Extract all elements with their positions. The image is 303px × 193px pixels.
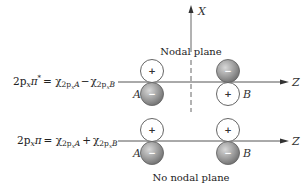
z-axis-arrow-icon [280,139,289,144]
svg-text:−: − [224,148,232,158]
nodal-plane-caption: Nodal plane [160,46,222,57]
svg-text:+: + [148,66,156,76]
atom-label-a: A [132,147,141,160]
atom-label-a: A [132,88,141,101]
z-axis-label: Z [291,76,300,89]
svg-text:−: − [224,66,232,76]
x-axis-arrow-icon [189,5,194,13]
no-nodal-plane-caption: No nodal plane [152,172,229,183]
z-axis-arrow-icon [280,80,289,85]
svg-text:+: + [224,125,232,135]
svg-text:+: + [148,125,156,135]
mo-diagram: X Nodal plane 2pxπ*= χ2pxA−χ2pxB Z + − A… [0,0,303,193]
antibonding-equation: 2pxπ*= χ2pxA−χ2pxB [13,74,116,90]
svg-text:+: + [224,89,232,99]
x-axis-label: X [197,5,207,18]
z-axis-label: Z [291,135,300,148]
svg-text:2pxπ= χ2pxA+χ2pxB: 2pxπ= χ2pxA+χ2pxB [17,134,118,149]
svg-text:−: − [148,148,156,158]
svg-text:2pxπ*= χ2pxA−χ2pxB: 2pxπ*= χ2pxA−χ2pxB [13,74,116,90]
bonding-equation: 2pxπ= χ2pxA+χ2pxB [17,134,118,149]
svg-text:−: − [148,89,156,99]
atom-label-b: B [242,147,251,160]
atom-label-b: B [242,88,251,101]
x-axis: X [189,5,208,52]
